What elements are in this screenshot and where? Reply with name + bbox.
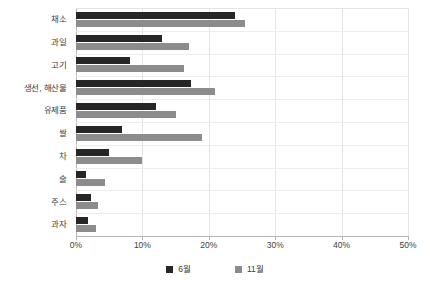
bar-chart: 채소과일고기생선, 해산물유제품쌀차술주스과자 0%10%20%30%40%50… [0, 0, 430, 285]
bar-group [76, 76, 408, 99]
bar-0 [76, 194, 91, 201]
category-label: 주스 [0, 190, 72, 213]
category-label: 채소 [0, 8, 72, 31]
bar-group [76, 145, 408, 168]
plot-canvas [76, 8, 408, 236]
bar-group [76, 31, 408, 54]
legend-label: 11월 [247, 265, 264, 274]
bar-1 [76, 88, 215, 95]
category-label: 고기 [0, 54, 72, 77]
bar-0 [76, 57, 130, 64]
bar-0 [76, 103, 156, 110]
bar-1 [76, 157, 142, 164]
bar-1 [76, 202, 98, 209]
bar-1 [76, 43, 189, 50]
category-axis-labels: 채소과일고기생선, 해산물유제품쌀차술주스과자 [0, 8, 72, 236]
bar-0 [76, 171, 86, 178]
x-axis-ticks: 0%10%20%30%40%50% [76, 237, 408, 251]
bar-1 [76, 225, 96, 232]
legend-swatch-icon [235, 266, 242, 273]
bar-group [76, 54, 408, 77]
x-tick-label: 50% [399, 241, 416, 250]
bar-1 [76, 65, 184, 72]
legend-item[interactable]: 11월 [235, 265, 264, 274]
category-label: 쌀 [0, 122, 72, 145]
bar-1 [76, 134, 202, 141]
gridline-vertical [408, 8, 409, 236]
category-label: 차 [0, 145, 72, 168]
bar-group [76, 122, 408, 145]
category-label: 과일 [0, 31, 72, 54]
bar-0 [76, 35, 162, 42]
legend-label: 6월 [178, 265, 191, 274]
bar-0 [76, 126, 122, 133]
chart-legend: 6월11월 [0, 261, 430, 277]
bar-0 [76, 12, 235, 19]
x-tick-label: 40% [333, 241, 350, 250]
x-tick-label: 30% [267, 241, 284, 250]
bar-groups [76, 8, 408, 236]
bar-group [76, 99, 408, 122]
x-tick-label: 10% [134, 241, 151, 250]
category-label: 과자 [0, 213, 72, 236]
legend-swatch-icon [166, 266, 173, 273]
bar-group [76, 168, 408, 191]
bar-0 [76, 217, 88, 224]
plot-area: 채소과일고기생선, 해산물유제품쌀차술주스과자 [0, 0, 430, 250]
bar-1 [76, 20, 245, 27]
bar-1 [76, 111, 176, 118]
category-label: 생선, 해산물 [0, 76, 72, 99]
bar-group [76, 8, 408, 31]
legend-item[interactable]: 6월 [166, 265, 191, 274]
x-tick-label: 20% [200, 241, 217, 250]
bar-group [76, 213, 408, 236]
bar-0 [76, 149, 109, 156]
x-tick-label: 0% [70, 241, 82, 250]
bar-group [76, 190, 408, 213]
bar-0 [76, 80, 191, 87]
bar-1 [76, 179, 105, 186]
category-label: 유제품 [0, 99, 72, 122]
category-label: 술 [0, 168, 72, 191]
